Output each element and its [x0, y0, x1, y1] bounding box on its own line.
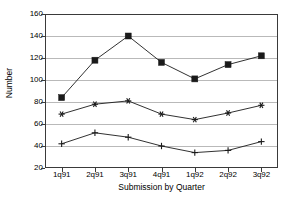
data-point-marker [225, 62, 231, 68]
data-point-marker [92, 130, 98, 136]
data-point-marker [125, 33, 131, 39]
data-point-marker [258, 138, 264, 144]
series-line [62, 101, 262, 120]
series-line [62, 133, 262, 153]
y-tick-label: 120 [0, 53, 43, 62]
data-point-marker [59, 95, 65, 101]
data-point-marker [92, 102, 98, 107]
x-tick-mark [95, 168, 96, 172]
y-tick-label: 60 [0, 119, 43, 128]
series-plus [58, 130, 264, 156]
data-point-marker [92, 57, 98, 63]
data-point-marker [59, 111, 65, 116]
x-tick-mark [62, 168, 63, 172]
data-point-marker [125, 98, 131, 103]
y-tick-label: 20 [0, 163, 43, 172]
data-point-marker [58, 141, 64, 147]
data-point-marker [158, 143, 164, 149]
data-point-marker [225, 110, 231, 115]
x-axis-title: Submission by Quarter [45, 182, 278, 192]
x-tick-mark [128, 168, 129, 172]
y-tick-label: 80 [0, 97, 43, 106]
data-point-marker [192, 149, 198, 155]
data-point-marker [192, 76, 198, 82]
data-point-marker [258, 53, 264, 59]
series-asterisk [59, 98, 265, 122]
x-tick-mark [228, 168, 229, 172]
data-point-marker [192, 117, 198, 122]
data-point-marker [258, 103, 264, 108]
series-filled-square [59, 33, 265, 101]
y-tick-label: 40 [0, 141, 43, 150]
line-chart: Number Submission by Quarter 20406080100… [0, 0, 286, 201]
data-series-layer [45, 14, 278, 168]
data-point-marker [225, 147, 231, 153]
y-tick-label: 140 [0, 31, 43, 40]
x-tick-mark [261, 168, 262, 172]
x-tick-mark [162, 168, 163, 172]
data-point-marker [159, 59, 165, 65]
y-tick-label: 160 [0, 9, 43, 18]
data-point-marker [125, 134, 131, 140]
x-tick-mark [195, 168, 196, 172]
data-point-marker [158, 111, 164, 116]
series-line [62, 36, 262, 98]
y-tick-label: 100 [0, 75, 43, 84]
